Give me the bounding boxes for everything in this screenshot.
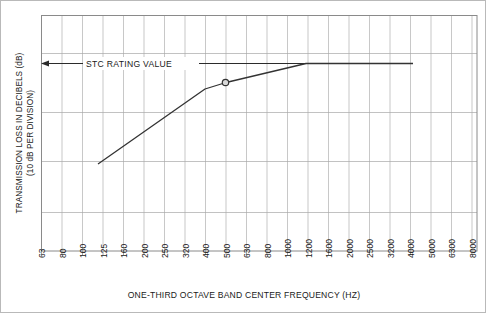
x-tick-label: 1200 bbox=[304, 239, 314, 258]
x-tick-label: 2500 bbox=[365, 239, 375, 258]
x-tick-label: 100 bbox=[78, 244, 88, 258]
x-tick-label: 8000 bbox=[468, 239, 478, 258]
x-tick-label: 6300 bbox=[447, 239, 457, 258]
stc-reference-point-marker bbox=[222, 79, 228, 85]
x-tick-label: 500 bbox=[222, 244, 232, 258]
stc-rating-label: STC RATING VALUE bbox=[86, 59, 172, 69]
plot-frame bbox=[42, 16, 478, 252]
x-tick-label: 80 bbox=[58, 248, 68, 258]
stc-arrow-icon bbox=[41, 61, 49, 67]
x-tick-label: 1600 bbox=[324, 239, 334, 258]
x-tick-label: 4000 bbox=[406, 239, 416, 258]
horizontal-gridlines bbox=[42, 54, 478, 213]
stc-rating-chart: STC RATING VALUE 63 80 100 125 160 200 2… bbox=[0, 0, 486, 313]
chart-canvas: STC RATING VALUE 63 80 100 125 160 200 2… bbox=[1, 1, 486, 313]
x-tick-label: 200 bbox=[140, 244, 150, 258]
x-tick-label: 800 bbox=[263, 244, 273, 258]
transmission-loss-curve bbox=[98, 64, 413, 165]
x-tick-label: 250 bbox=[160, 244, 170, 258]
x-tick-label: 63 bbox=[37, 248, 47, 258]
x-tick-label: 125 bbox=[99, 244, 109, 258]
x-tick-label: 160 bbox=[119, 244, 129, 258]
x-tick-label: 2000 bbox=[345, 239, 355, 258]
x-tick-label: 320 bbox=[181, 244, 191, 258]
x-axis-title: ONE-THIRD OCTAVE BAND CENTER FREQUENCY (… bbox=[128, 290, 361, 300]
x-tick-label: 3200 bbox=[386, 239, 396, 258]
vertical-gridlines bbox=[42, 15, 473, 251]
x-tick-label: 400 bbox=[201, 244, 211, 258]
x-tick-label: 630 bbox=[242, 244, 252, 258]
y-axis-title-line2: (10 dB PER DIVISION) bbox=[26, 90, 35, 176]
x-tick-label: 5000 bbox=[427, 239, 437, 258]
x-tick-label: 1000 bbox=[283, 239, 293, 258]
y-axis-title-line1: TRANSMISSION LOSS IN DECIBELS (dB) bbox=[15, 52, 24, 213]
